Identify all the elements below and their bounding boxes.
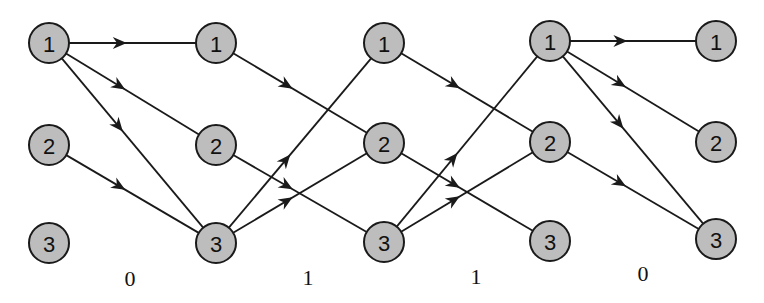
edge-stage2-3-to-1 [397, 56, 538, 226]
state-node-col2-1: 1 [364, 23, 404, 63]
edge-stage2-1-to-2 [401, 53, 533, 132]
edge-stage0-1-to-3 [62, 58, 203, 227]
edge-stage3-1-to-3 [563, 56, 703, 223]
trellis-diagram: 123123123123123 0110 [0, 0, 764, 303]
arrowhead-icon [278, 76, 293, 88]
stage-label-3: 0 [638, 261, 649, 286]
node-label: 3 [544, 230, 556, 255]
node-label: 1 [710, 30, 722, 55]
state-node-col0-3: 3 [29, 223, 69, 263]
state-node-col4-1: 1 [696, 21, 736, 61]
stage-label-2: 1 [471, 264, 482, 289]
node-label: 2 [544, 131, 556, 156]
node-label: 1 [378, 32, 390, 57]
edge-stage3-2-to-3 [567, 152, 698, 229]
node-label: 3 [378, 231, 390, 256]
state-node-col4-3: 3 [696, 219, 736, 259]
state-node-col3-3: 3 [530, 221, 570, 261]
state-node-col4-2: 2 [696, 122, 736, 162]
state-node-col2-2: 2 [364, 123, 404, 163]
edge-stage1-3-to-1 [229, 58, 371, 227]
arrowhead-icon [109, 117, 123, 132]
arrowhead-icon [445, 176, 460, 188]
node-label: 2 [378, 132, 390, 157]
arrowhead-icon [445, 196, 460, 208]
edge-stage0-1-to-2 [66, 53, 199, 134]
state-node-col2-3: 3 [364, 222, 404, 262]
node-label: 2 [710, 131, 722, 156]
node-label: 1 [43, 32, 55, 57]
stage-label-0: 0 [125, 266, 136, 291]
arrowhead-icon [278, 197, 293, 209]
state-node-col1-1: 1 [196, 23, 236, 63]
arrowhead-icon [110, 178, 125, 190]
arrowhead-icon [110, 77, 125, 89]
state-node-col1-3: 3 [196, 223, 236, 263]
arrowhead-icon [611, 75, 626, 87]
node-label: 2 [210, 134, 222, 159]
edge-stage3-1-to-2 [567, 51, 699, 131]
node-label: 1 [544, 30, 556, 55]
state-node-col0-1: 1 [29, 23, 69, 63]
arrowhead-icon [445, 76, 460, 88]
stage-labels: 0110 [125, 261, 649, 291]
node-label: 3 [210, 232, 222, 257]
arrowhead-icon [611, 174, 626, 186]
state-node-col1-2: 2 [196, 125, 236, 165]
state-node-col3-1: 1 [530, 21, 570, 61]
edge-stage0-2-to-3 [66, 155, 199, 233]
node-label: 3 [710, 228, 722, 253]
state-nodes: 123123123123123 [29, 21, 736, 263]
edge-stage1-1-to-2 [233, 53, 367, 133]
state-node-col0-2: 2 [29, 125, 69, 165]
stage-label-1: 1 [303, 265, 314, 290]
state-node-col3-2: 2 [530, 122, 570, 162]
arrowhead-icon [278, 177, 293, 189]
arrowhead-icon [444, 153, 458, 168]
node-label: 2 [43, 134, 55, 159]
node-label: 3 [43, 232, 55, 257]
node-label: 1 [210, 32, 222, 57]
